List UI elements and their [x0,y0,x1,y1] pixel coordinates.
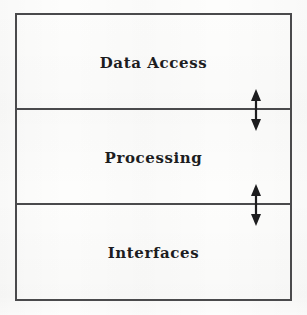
layer-label-processing: Processing [17,149,290,167]
diagram-canvas: Data Access Processing Interfaces [0,0,307,315]
layer-label-data-access: Data Access [17,54,290,72]
double-headed-vertical-arrow-icon [247,89,265,131]
double-headed-vertical-arrow-icon [247,184,265,226]
layer-label-interfaces: Interfaces [17,244,290,262]
